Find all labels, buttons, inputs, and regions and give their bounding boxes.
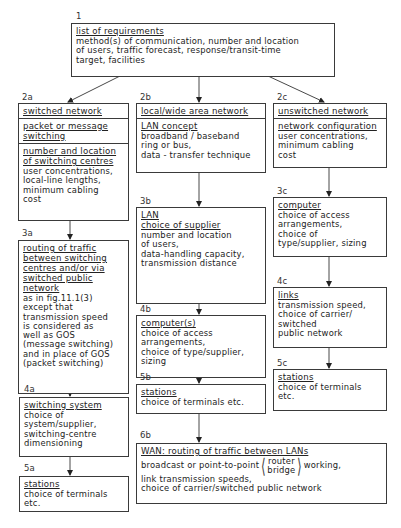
node-3b-heading: LAN choice of supplier [141,210,262,230]
node-6b-line3: choice of carrier/switched public networ… [141,484,383,493]
node-6b-label: 6b [140,431,151,440]
router-bridge-choice: ⟨ router bridge ⟩ [259,457,303,475]
node-3a-routing-of-traffic: routing of traffic between switching cen… [18,240,129,394]
node-5c-text: choice of terminals etc. [278,383,383,402]
left-angle-bracket-icon: ⟨ [261,457,266,475]
node-2b-local-wide-area-network: local/wide area network LAN concept broa… [136,103,266,173]
node-2b-label: 2b [140,93,151,102]
node-4c-links: links transmission speed, choice of carr… [273,287,387,348]
node-4c-label: 4c [277,277,287,286]
option-bridge: bridge [267,466,295,475]
node-5a-stations: stations choice of terminals etc. [19,476,129,512]
node-2c-label: 2c [277,93,287,102]
node-5c-label: 5c [277,359,287,368]
node-5c-heading: stations [278,372,383,382]
node-3b-label: 3b [140,197,151,206]
node-2b-heading: local/wide area network [141,106,262,116]
node-2c-heading: unswitched network [278,106,383,116]
node-2b-sub-heading: LAN concept [141,121,262,131]
node-4b-heading: computer(s) [141,318,262,328]
node-5b-stations: stations choice of terminals etc. [136,384,266,414]
node-2a-sub1-heading: packet or message switching [23,121,125,141]
node-5c-stations: stations choice of terminals etc. [273,369,387,411]
node-3c-computer: computer choice of access arrangements, … [273,197,387,257]
node-2b-sub-text: broadband / baseband ring or bus, data -… [141,132,262,160]
node-2a-label: 2a [22,93,33,102]
node-4c-heading: links [278,290,383,300]
node-4a-label: 4a [24,385,35,394]
node-1-list-of-requirements: list of requirements method(s) of commun… [71,23,335,77]
node-2a-sub2-heading: number and location of switching centres [23,146,125,166]
node-2a-heading: switched network [23,106,125,116]
node-6b-line1-post: working, [304,461,341,470]
node-5b-heading: stations [141,387,262,397]
node-2c-sub-heading: network configuration [278,121,383,131]
node-4b-computers: computer(s) choice of access arrangement… [136,315,266,378]
node-3a-text: as in fig.11.1(3) except that transmissi… [23,294,125,368]
node-3b-text: number and location of users, data-handl… [141,231,262,268]
right-angle-bracket-icon: ⟩ [297,457,302,475]
node-3c-label: 3c [277,187,287,196]
node-3b-lan-choice-of-supplier: LAN choice of supplier number and locati… [136,207,266,304]
node-1-heading: list of requirements [76,26,331,36]
node-4c-text: transmission speed, choice of carrier/ s… [278,301,383,338]
node-2a-sub2-text: user concentrations, local-line lengths,… [23,167,125,204]
node-4a-text: choice of system/supplier, switching-cen… [24,411,125,448]
node-5a-label: 5a [24,464,35,473]
node-5a-heading: stations [24,479,125,489]
node-4a-switching-system: switching system choice of system/suppli… [19,397,129,457]
node-2c-sub-text: user concentrations, minimum cabling cos… [278,132,383,160]
edge-1-2a [68,76,120,102]
node-1-label: 1 [76,12,81,21]
node-6b-wan-routing: WAN: routing of traffic between LANs bro… [136,443,387,504]
node-3c-text: choice of access arrangements, choice of… [278,211,383,248]
node-4b-text: choice of access arrangements, choice of… [141,329,262,366]
node-4b-label: 4b [140,305,151,314]
node-3a-label: 3a [22,229,33,238]
node-3c-heading: computer [278,200,383,210]
node-1-text: method(s) of communication, number and l… [76,37,331,65]
node-5b-text: choice of terminals etc. [141,398,262,407]
node-3a-heading: routing of traffic between switching cen… [23,243,125,293]
node-2c-unswitched-network: unswitched network network configuration… [273,103,387,168]
node-5a-text: choice of terminals etc. [24,490,125,509]
node-5b-label: 5b [140,373,151,382]
node-4a-heading: switching system [24,400,125,410]
node-2a-switched-network: switched network packet or message switc… [18,103,129,221]
node-6b-line1-pre: broadcast or point-to-point [141,461,259,470]
